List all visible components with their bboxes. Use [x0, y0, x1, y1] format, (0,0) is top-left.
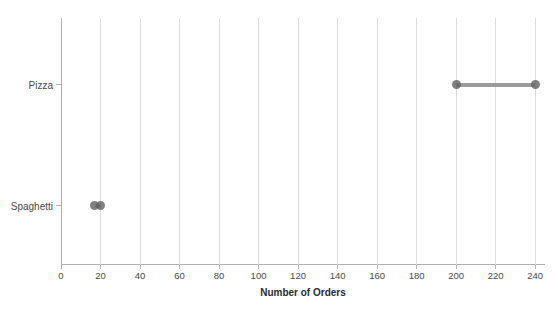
- x-tick-label: 80: [214, 270, 225, 281]
- x-tick: [298, 265, 299, 269]
- x-gridline: [416, 18, 417, 265]
- dumbbell-chart: 020406080100120140160180200220240PizzaSp…: [0, 0, 558, 311]
- x-tick: [219, 265, 220, 269]
- x-tick-label: 0: [58, 270, 63, 281]
- x-gridline: [140, 18, 141, 265]
- x-gridline: [377, 18, 378, 265]
- x-tick-label: 180: [409, 270, 425, 281]
- x-tick-label: 60: [174, 270, 185, 281]
- x-gridline: [535, 18, 536, 265]
- x-tick: [179, 265, 180, 269]
- x-axis-label: Number of Orders: [61, 287, 545, 298]
- x-tick-label: 20: [95, 270, 106, 281]
- x-tick: [258, 265, 259, 269]
- x-tick: [337, 265, 338, 269]
- x-gridline: [456, 18, 457, 265]
- x-tick: [416, 265, 417, 269]
- x-tick: [61, 265, 62, 269]
- x-tick: [495, 265, 496, 269]
- x-tick: [535, 265, 536, 269]
- x-tick-label: 120: [290, 270, 306, 281]
- x-tick-label: 240: [527, 270, 543, 281]
- x-tick-label: 220: [488, 270, 504, 281]
- x-gridline: [100, 18, 101, 265]
- x-gridline: [298, 18, 299, 265]
- x-tick: [377, 265, 378, 269]
- y-tick: [56, 205, 61, 206]
- plot-area: [61, 18, 545, 265]
- x-tick-label: 140: [330, 270, 346, 281]
- category-label: Pizza: [0, 79, 53, 90]
- x-gridline: [495, 18, 496, 265]
- x-tick-label: 160: [369, 270, 385, 281]
- x-tick-label: 100: [251, 270, 267, 281]
- x-gridline: [337, 18, 338, 265]
- x-gridline: [258, 18, 259, 265]
- x-gridline: [219, 18, 220, 265]
- dumbbell-line: [456, 83, 535, 87]
- x-tick: [140, 265, 141, 269]
- x-tick: [456, 265, 457, 269]
- y-tick: [56, 84, 61, 85]
- x-gridline: [179, 18, 180, 265]
- category-label: Spaghetti: [0, 200, 53, 211]
- x-tick-label: 40: [135, 270, 146, 281]
- x-tick: [100, 265, 101, 269]
- x-tick-label: 200: [448, 270, 464, 281]
- dumbbell-dot-min: [452, 80, 461, 89]
